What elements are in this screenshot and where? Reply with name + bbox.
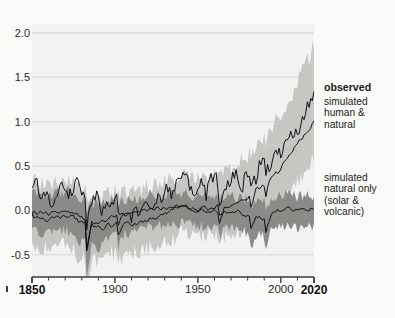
- x-tick-2020: 2020: [301, 283, 328, 297]
- climate-attribution-chart: °C 2.01.51.00.50.0-0.5 18501900195020002…: [0, 0, 395, 318]
- x-tick-2000: 2000: [268, 283, 294, 295]
- y-axis-tick-labels: 2.01.51.00.50.0-0.5: [0, 0, 30, 318]
- y-tick-1.5: 1.5: [0, 71, 30, 83]
- y-tick-0.5: 0.5: [0, 160, 30, 172]
- x-tick-1900: 1900: [102, 283, 128, 295]
- y-tick-2.0: 2.0: [0, 27, 30, 39]
- left-edge-tick-mark: [6, 286, 8, 292]
- chart-plot-area: [0, 0, 395, 318]
- y-tick-0.0: 0.0: [0, 204, 30, 216]
- annotation-observed: observed: [324, 82, 371, 93]
- annotation-simulated: simulated human & natural: [324, 96, 368, 130]
- annotation-simulated: simulated natural only (solar & volcanic…: [324, 172, 377, 218]
- x-tick-1950: 1950: [185, 283, 211, 295]
- x-tick-1850: 1850: [19, 283, 46, 297]
- y-tick-1.0: 1.0: [0, 116, 30, 128]
- y-tick--0.5: -0.5: [0, 249, 30, 261]
